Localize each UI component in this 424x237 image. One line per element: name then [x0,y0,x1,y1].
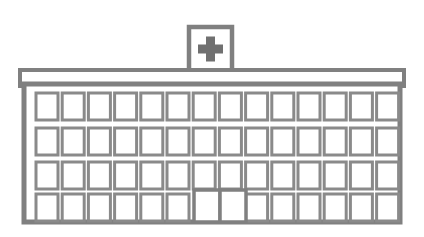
window [377,128,399,155]
window [193,93,215,120]
window [36,128,58,155]
window [88,128,110,155]
window [350,194,372,221]
window [246,162,268,189]
illustration-canvas: Hospital Building Line-art illustration … [0,0,424,237]
window [298,93,320,120]
entrance-door-panel[interactable] [220,190,246,222]
window [62,93,84,120]
window [62,162,84,189]
window [377,194,399,221]
window [272,194,294,221]
window [62,194,84,221]
window [219,162,241,189]
window [115,162,137,189]
window [141,162,163,189]
window [246,128,268,155]
window [324,194,346,221]
window [298,128,320,155]
window [324,128,346,155]
window [350,93,372,120]
window [141,93,163,120]
window [350,162,372,189]
window [272,128,294,155]
rooftop-sign-group [189,27,232,71]
main-entrance [194,190,246,222]
window [246,93,268,120]
window [88,194,110,221]
window [219,93,241,120]
window [193,162,215,189]
window [350,128,372,155]
window [115,128,137,155]
window [36,93,58,120]
window [167,93,189,120]
window [167,162,189,189]
window [298,162,320,189]
window [167,194,189,221]
hospital-building-illustration [0,0,424,237]
window [167,128,189,155]
window [272,93,294,120]
window [272,162,294,189]
window [141,128,163,155]
window [141,194,163,221]
window [377,93,399,120]
window [88,162,110,189]
window [193,128,215,155]
window [219,128,241,155]
window [115,194,137,221]
window [298,194,320,221]
window [36,194,58,221]
window [324,93,346,120]
window [88,93,110,120]
window [246,194,268,221]
window [324,162,346,189]
window [115,93,137,120]
entrance-door-panel[interactable] [194,190,220,222]
window [62,128,84,155]
window [377,162,399,189]
window [36,162,58,189]
